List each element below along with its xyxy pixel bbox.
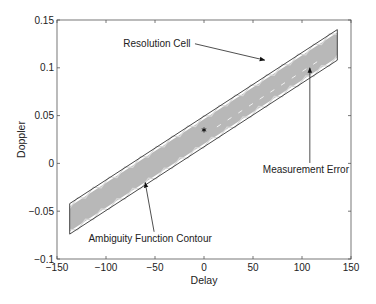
ambiguity-chart: Resolution CellMeasurement ErrorAmbiguit… [0,0,376,304]
ambiguity-contour-fill [70,32,338,231]
y-tick-label: −0.1 [34,254,54,265]
annotation-label: Resolution Cell [123,38,190,49]
x-tick-label: 0 [201,262,207,273]
x-tick-label: −50 [147,262,164,273]
y-tick-label: −0.05 [29,206,55,217]
x-tick-label: −100 [95,262,118,273]
annotation-label: Measurement Error [263,164,350,175]
x-axis-label: Delay [191,274,219,286]
x-tick-label: 150 [343,262,360,273]
y-axis-label: Doppler [15,121,27,158]
x-tick-label: 50 [247,262,259,273]
annotation-label: Ambiguity Function Contour [88,233,212,244]
y-tick-label: 0.1 [40,62,54,73]
y-tick-label: 0.05 [35,110,55,121]
y-tick-label: 0.15 [35,15,55,26]
y-tick-label: 0 [48,158,54,169]
x-tick-label: 100 [294,262,311,273]
